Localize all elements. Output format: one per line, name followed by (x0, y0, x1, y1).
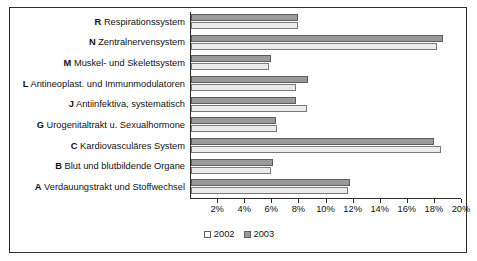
bar-2003 (191, 159, 273, 166)
category-label: M Muskel- und Skelettsystem (64, 59, 185, 68)
category-label-row: M Muskel- und Skelettsystem (10, 53, 188, 74)
bar-2003 (191, 138, 434, 145)
bar-2003 (191, 55, 271, 62)
category-name: Urogenitaltrakt u. Sexualhormone (44, 120, 185, 130)
x-axis-tick-label: 18% (425, 204, 444, 214)
bar-2002 (191, 146, 441, 153)
x-axis-tick (217, 199, 218, 203)
bar-group (191, 136, 461, 157)
x-axis-tick-label: 10% (316, 204, 335, 214)
category-label-row: L Antineoplast. und Immunmodulatoren (10, 74, 188, 95)
bar-2002 (191, 43, 437, 50)
x-axis-tick-label: 14% (370, 204, 389, 214)
x-axis-tick-label: 4% (237, 204, 250, 214)
category-label-row: G Urogenitaltrakt u. Sexualhormone (10, 115, 188, 136)
bar-2003 (191, 179, 350, 186)
category-label-row: B Blut und blutbildende Organe (10, 157, 188, 178)
bar-group (191, 33, 461, 54)
bar-2003 (191, 76, 308, 83)
chart-legend: 20022003 (10, 230, 468, 239)
x-axis-tick (434, 199, 435, 203)
category-label-row: A Verdauungstrakt und Stoffwechsel (10, 177, 188, 198)
category-axis-labels: R RespirationssystemN Zentralnervensyste… (10, 12, 188, 198)
bar-group (191, 115, 461, 136)
category-name: Verdauungstrakt und Stoffwechsel (41, 182, 185, 192)
category-label: A Verdauungstrakt und Stoffwechsel (35, 183, 185, 192)
bar-group (191, 74, 461, 95)
category-label: B Blut und blutbildende Organe (55, 162, 185, 171)
category-name: Blut und blutbildende Organe (62, 161, 185, 171)
bar-2002 (191, 125, 277, 132)
legend-item-2002: 2002 (204, 230, 235, 239)
x-axis-tick (271, 199, 272, 203)
legend-swatch-2002 (204, 231, 211, 238)
legend-swatch-2003 (244, 231, 251, 238)
x-axis-tick-labels: 2%4%6%8%10%12%14%16%18%20% (190, 204, 475, 218)
category-name: Zentralnervensystem (96, 37, 185, 47)
bar-2002 (191, 22, 298, 29)
category-label-row: R Respirationssystem (10, 12, 188, 33)
x-axis-tick-label: 20% (452, 204, 471, 214)
bar-2002 (191, 63, 269, 70)
x-axis-tick (326, 199, 327, 203)
category-label-row: J Antiinfektiva, systematisch (10, 95, 188, 116)
x-axis-tick-label: 8% (292, 204, 305, 214)
category-code: C (71, 141, 78, 151)
x-axis-tick-label: 12% (343, 204, 362, 214)
x-axis-tick (353, 199, 354, 203)
category-label: J Antiinfektiva, systematisch (69, 100, 185, 109)
x-axis-tick-label: 16% (397, 204, 416, 214)
category-code: B (55, 161, 62, 171)
x-axis-tick (298, 199, 299, 203)
category-name: Antineoplast. und Immunmodulatoren (28, 79, 185, 89)
bar-2003 (191, 35, 443, 42)
bar-group (191, 12, 461, 33)
category-code: N (89, 37, 96, 47)
bar-2002 (191, 84, 296, 91)
bar-group (191, 177, 461, 198)
bar-group (191, 157, 461, 178)
plot-area (190, 12, 461, 198)
bar-group (191, 53, 461, 74)
bar-2003 (191, 97, 296, 104)
category-label-row: C Kardiovasculäres System (10, 136, 188, 157)
category-name: Antiinfektiva, systematisch (74, 99, 185, 109)
x-axis-tick (407, 199, 408, 203)
x-axis-tick (244, 199, 245, 203)
category-label: C Kardiovasculäres System (71, 142, 185, 151)
bar-2003 (191, 117, 276, 124)
x-axis-tick-label: 2% (210, 204, 223, 214)
category-name: Respirationssystem (101, 17, 185, 27)
bar-group (191, 95, 461, 116)
legend-label: 2002 (214, 230, 235, 239)
category-label-row: N Zentralnervensystem (10, 33, 188, 54)
category-label: R Respirationssystem (95, 18, 185, 27)
category-label: L Antineoplast. und Immunmodulatoren (23, 80, 185, 89)
x-axis (190, 198, 461, 203)
chart-frame: R RespirationssystemN Zentralnervensyste… (9, 7, 467, 253)
x-axis-tick-label: 6% (265, 204, 278, 214)
bar-2002 (191, 105, 307, 112)
bar-2002 (191, 167, 271, 174)
legend-label: 2003 (254, 230, 275, 239)
category-name: Muskel- und Skelettsystem (71, 58, 185, 68)
bar-2003 (191, 14, 298, 21)
category-name: Kardiovasculäres System (78, 141, 185, 151)
category-code: G (37, 120, 44, 130)
category-label: N Zentralnervensystem (89, 38, 185, 47)
x-axis-tick (461, 199, 462, 203)
x-axis-tick (380, 199, 381, 203)
legend-item-2003: 2003 (244, 230, 275, 239)
category-label: G Urogenitaltrakt u. Sexualhormone (37, 121, 185, 130)
bar-2002 (191, 187, 348, 194)
